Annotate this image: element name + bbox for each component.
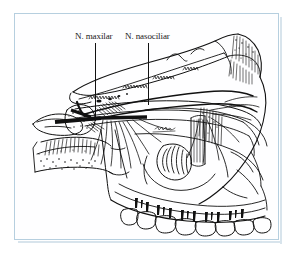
label-n-nasociliar: N. nasociliar bbox=[125, 31, 170, 41]
palatine-strut bbox=[101, 130, 129, 200]
drawing-ink-group bbox=[33, 34, 271, 236]
greater-wing-sphenoid bbox=[215, 34, 261, 77]
frame-shadow-right bbox=[280, 17, 282, 244]
leader-line-n-nasociliar bbox=[148, 43, 149, 105]
leader-line-n-maxilar bbox=[95, 43, 96, 121]
illustration-frame: N. maxilar N. nasociliar bbox=[14, 13, 279, 240]
orbital-rim-bumps bbox=[167, 49, 204, 62]
posterior-nerve-fan bbox=[187, 97, 259, 164]
frame-shadow-bottom bbox=[18, 241, 282, 243]
hard-palate-left bbox=[33, 137, 113, 174]
label-n-maxilar: N. maxilar bbox=[75, 31, 113, 41]
scribble-annotation bbox=[153, 127, 175, 132]
maxillary-tuberosity-hatch bbox=[199, 108, 222, 145]
pterygoid-plate-hatch bbox=[194, 120, 203, 162]
anatomical-line-drawing bbox=[15, 14, 279, 240]
inferior-concha-spiral bbox=[157, 144, 192, 180]
figure-root: N. maxilar N. nasociliar bbox=[0, 0, 297, 263]
cancellous-bone-stipple bbox=[38, 149, 95, 169]
nasal-ethmoid-block bbox=[33, 114, 83, 135]
